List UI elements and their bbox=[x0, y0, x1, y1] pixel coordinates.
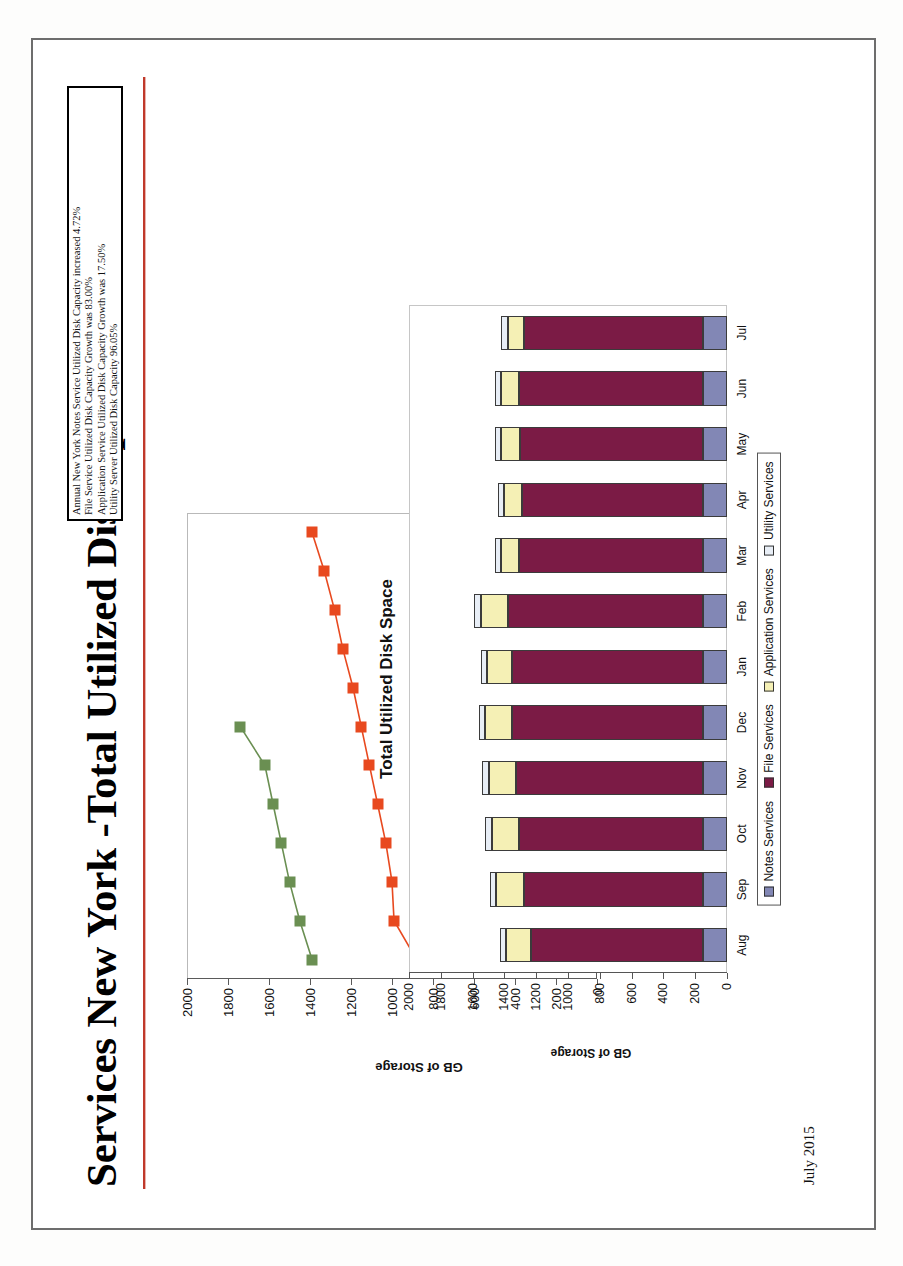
bar-chart-segment bbox=[512, 705, 703, 740]
bar-chart-segment bbox=[494, 427, 500, 462]
bar-chart-segment bbox=[494, 371, 500, 406]
summary-notes-box: Annual New York Notes Service Utilized D… bbox=[67, 86, 123, 521]
bar-chart-stacked-bar bbox=[490, 872, 727, 907]
bar-chart-legend-label: Notes Services bbox=[762, 801, 776, 882]
line-chart-data-point bbox=[259, 760, 270, 771]
bar-chart-segment bbox=[490, 872, 496, 907]
bar-chart-x-label: Oct bbox=[735, 825, 749, 844]
bar-chart-x-label: May bbox=[735, 433, 749, 456]
bar-chart-segment bbox=[703, 427, 727, 462]
bar-chart-x-label: Aug bbox=[735, 934, 749, 955]
bar-chart-segment bbox=[506, 928, 531, 963]
line-chart-y-tick-label: 1200 bbox=[343, 988, 358, 1063]
bar-chart-title: Total Utilized Disk Space bbox=[377, 299, 397, 1059]
bar-chart-y-tick-label: 600 bbox=[624, 983, 638, 1045]
bar-chart-segment bbox=[501, 316, 507, 351]
bar-chart-stacked-bar bbox=[474, 594, 727, 629]
bar-chart-segment bbox=[523, 872, 703, 907]
bar-chart-y-tick bbox=[695, 973, 696, 979]
bar-chart-segment bbox=[523, 316, 703, 351]
bar-chart-y-tick bbox=[568, 973, 569, 979]
bar-chart-segment bbox=[703, 538, 727, 573]
line-chart-y-tick bbox=[187, 979, 188, 985]
scanned-page-background: Services New York -Total Utilized Disk S… bbox=[0, 0, 903, 1266]
line-chart-y-tick bbox=[310, 979, 311, 985]
bar-chart-segment bbox=[491, 817, 518, 852]
bar-chart-segment bbox=[512, 650, 703, 685]
bar-chart-y-tick-label: 1400 bbox=[497, 983, 511, 1045]
bar-chart-segment bbox=[515, 761, 703, 796]
bar-chart-segment bbox=[480, 650, 486, 685]
bar-chart-segment bbox=[478, 705, 484, 740]
bar-chart-legend-item: Utility Services bbox=[762, 461, 776, 555]
bar-chart-segment bbox=[703, 316, 727, 351]
bar-chart-legend-label: File Services bbox=[762, 704, 776, 773]
bar-chart-y-tick bbox=[472, 973, 473, 979]
bar-chart-stacked-bar bbox=[485, 817, 727, 852]
bar-chart-x-label: Sep bbox=[735, 879, 749, 900]
bar-chart-segment bbox=[518, 371, 702, 406]
bar-chart-stacked-bar bbox=[478, 705, 726, 740]
bar-chart-segment bbox=[486, 650, 511, 685]
bar-chart-y-axis-title: GB of Storage bbox=[550, 1046, 631, 1060]
note-line-2: File Service Utilized Disk Capacity Grow… bbox=[83, 92, 95, 515]
bar-chart-segment bbox=[521, 483, 702, 518]
bar-chart-y-tick bbox=[599, 973, 600, 979]
bar-chart-stacked-bar bbox=[482, 761, 727, 796]
line-chart-y-tick bbox=[269, 979, 270, 985]
bar-chart-y-tick-label: 2000 bbox=[402, 983, 416, 1045]
bar-chart-x-label: Feb bbox=[735, 601, 749, 622]
page-border: Services New York -Total Utilized Disk S… bbox=[31, 38, 876, 1230]
line-chart-y-tick bbox=[351, 979, 352, 985]
bar-chart-legend-swatch bbox=[764, 887, 774, 897]
title-divider-rule bbox=[143, 77, 146, 1189]
line-chart-data-point bbox=[355, 721, 366, 732]
bar-chart-x-label: Dec bbox=[735, 712, 749, 733]
bar-chart-segment bbox=[703, 650, 727, 685]
line-chart-y-tick-label: 1600 bbox=[261, 988, 276, 1063]
bar-chart-y-tick bbox=[536, 973, 537, 979]
bar-chart-legend-label: Utility Services bbox=[762, 461, 776, 540]
note-line-1: Annual New York Notes Service Utilized D… bbox=[71, 92, 83, 515]
bar-chart-segment bbox=[703, 594, 727, 629]
presentation-slide: Services New York -Total Utilized Disk S… bbox=[59, 59, 849, 1209]
line-chart-data-point bbox=[275, 838, 286, 849]
bar-chart-y-tick-label: 1800 bbox=[433, 983, 447, 1045]
bar-chart-segment bbox=[518, 817, 702, 852]
bar-chart-legend: Notes ServicesFile ServicesApplication S… bbox=[757, 452, 781, 905]
bar-chart-x-label: Nov bbox=[735, 768, 749, 789]
bar-chart-segment bbox=[507, 594, 703, 629]
line-chart-data-point bbox=[329, 605, 340, 616]
bar-chart-segment bbox=[485, 705, 512, 740]
bar-chart-y-tick bbox=[631, 973, 632, 979]
bar-chart-legend-swatch bbox=[764, 681, 774, 691]
bar-chart-segment bbox=[703, 483, 727, 518]
bar-chart-x-label: Jan bbox=[735, 657, 749, 676]
line-chart-y-tick-label: 2000 bbox=[179, 988, 194, 1063]
line-chart-data-point bbox=[294, 915, 305, 926]
line-chart-data-point bbox=[306, 527, 317, 538]
line-chart-y-tick-label: 1800 bbox=[220, 988, 235, 1063]
bar-chart-segment bbox=[703, 928, 727, 963]
bar-chart-segment bbox=[501, 371, 518, 406]
bar-chart-stacked-bar bbox=[480, 650, 726, 685]
bar-chart-segment bbox=[507, 316, 523, 351]
bar-chart-legend-swatch bbox=[764, 778, 774, 788]
bar-chart-y-tick bbox=[409, 973, 410, 979]
bar-chart-segment bbox=[520, 427, 703, 462]
bar-chart-y-tick-label: 800 bbox=[592, 983, 606, 1045]
bar-chart-segment bbox=[501, 538, 518, 573]
bar-chart-segment bbox=[494, 538, 500, 573]
bar-chart-x-label: Jul bbox=[735, 325, 749, 340]
bar-chart-segment bbox=[703, 872, 727, 907]
bar-chart-segment bbox=[703, 761, 727, 796]
bar-chart-segment bbox=[501, 427, 520, 462]
note-line-3: Application Service Utilized Disk Capaci… bbox=[95, 92, 107, 515]
bar-chart-y-tick bbox=[504, 973, 505, 979]
bar-chart-stacked-bar bbox=[501, 316, 727, 351]
bar-chart-x-label: Mar bbox=[735, 545, 749, 566]
bar-chart-y-tick-label: 400 bbox=[656, 983, 670, 1045]
bar-chart-y-tick bbox=[727, 973, 728, 979]
bar-chart-segment bbox=[485, 817, 491, 852]
bar-chart-segment bbox=[498, 483, 504, 518]
